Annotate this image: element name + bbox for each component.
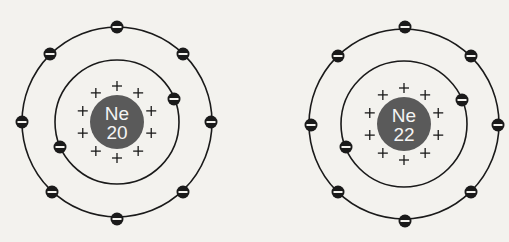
electron-minus-icon	[332, 50, 345, 63]
proton-plus-icon	[399, 155, 409, 165]
proton-plus-icon	[78, 106, 88, 116]
electron-minus-icon	[177, 48, 190, 61]
electron-minus-icon	[340, 141, 353, 154]
diagram-canvas: Ne20Ne22	[0, 0, 509, 242]
atom-neon-20: Ne20	[16, 21, 218, 226]
element-symbol: Ne	[105, 103, 129, 124]
element-symbol: Ne	[392, 105, 416, 126]
atom-neon-22: Ne22	[305, 21, 505, 228]
electron-minus-icon	[465, 186, 478, 199]
proton-plus-icon	[433, 108, 443, 118]
electron-minus-icon	[44, 48, 57, 61]
proton-plus-icon	[91, 88, 101, 98]
proton-plus-icon	[133, 88, 143, 98]
electron-minus-icon	[111, 21, 124, 34]
electron-minus-icon	[46, 186, 59, 199]
proton-plus-icon	[433, 130, 443, 140]
proton-plus-icon	[133, 146, 143, 156]
mass-number: 20	[106, 122, 127, 143]
electron-minus-icon	[399, 21, 412, 34]
electron-minus-icon	[332, 186, 345, 199]
proton-plus-icon	[365, 130, 375, 140]
proton-plus-icon	[399, 83, 409, 93]
proton-plus-icon	[146, 128, 156, 138]
electron-minus-icon	[54, 141, 67, 154]
electron-minus-icon	[399, 215, 412, 228]
proton-plus-icon	[78, 128, 88, 138]
electron-minus-icon	[465, 50, 478, 63]
proton-plus-icon	[420, 148, 430, 158]
electron-minus-icon	[305, 119, 318, 132]
proton-plus-icon	[365, 108, 375, 118]
electron-minus-icon	[177, 186, 190, 199]
electron-minus-icon	[16, 116, 29, 129]
electron-minus-icon	[205, 116, 218, 129]
proton-plus-icon	[112, 81, 122, 91]
nucleus: Ne20	[90, 95, 144, 149]
electron-minus-icon	[492, 119, 505, 132]
electron-minus-icon	[168, 93, 181, 106]
proton-plus-icon	[146, 106, 156, 116]
electron-minus-icon	[111, 213, 124, 226]
proton-plus-icon	[420, 90, 430, 100]
proton-plus-icon	[91, 146, 101, 156]
mass-number: 22	[393, 124, 414, 145]
isotope-diagram: Ne20Ne22	[0, 0, 509, 242]
nucleus: Ne22	[377, 97, 431, 151]
electron-minus-icon	[456, 94, 469, 107]
proton-plus-icon	[378, 148, 388, 158]
proton-plus-icon	[378, 90, 388, 100]
proton-plus-icon	[112, 153, 122, 163]
